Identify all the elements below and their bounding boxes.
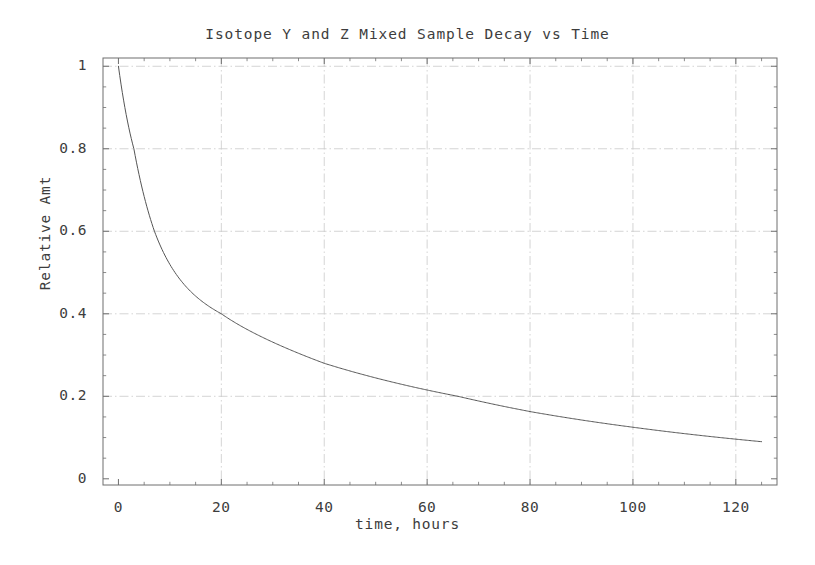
x-tick-label: 0: [78, 499, 158, 515]
y-tick-label: 0: [7, 470, 87, 486]
decay-curve: [118, 66, 761, 441]
x-tick-label: 60: [387, 499, 467, 515]
x-tick-label: 80: [490, 499, 570, 515]
chart-figure: Isotope Y and Z Mixed Sample Decay vs Ti…: [0, 0, 815, 565]
x-tick-label: 20: [181, 499, 261, 515]
y-tick-label: 1: [7, 57, 87, 73]
x-tick-label: 100: [593, 499, 673, 515]
x-tick-label: 40: [284, 499, 364, 515]
y-axis-label: Relative Amt: [37, 143, 53, 323]
y-tick-label: 0.2: [7, 387, 87, 403]
gridlines: [103, 58, 777, 485]
plot-frame: [103, 58, 777, 485]
x-tick-label: 120: [696, 499, 776, 515]
plot-canvas: [0, 0, 815, 565]
x-axis-label: time, hours: [0, 516, 815, 532]
axis-ticks: [103, 58, 777, 485]
